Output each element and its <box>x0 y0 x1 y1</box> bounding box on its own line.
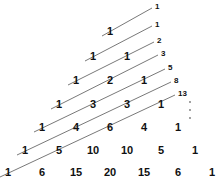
fibonacci-label: 1 <box>155 20 160 29</box>
pascal-entry: 3 <box>124 98 130 110</box>
pascal-entry: 6 <box>39 166 45 178</box>
pascal-entry: 5 <box>56 144 62 156</box>
fibonacci-label: 13 <box>178 89 187 98</box>
fibonacci-label: 1 <box>155 2 160 11</box>
pascal-entry: 3 <box>90 98 96 110</box>
fibonacci-label: 3 <box>161 49 166 58</box>
pascal-entry: 1 <box>39 121 45 133</box>
fibonacci-labels: 11235813 <box>155 2 187 98</box>
pascal-entry: 1 <box>56 98 62 110</box>
pascal-entry: 1 <box>192 144 198 156</box>
diagonal-line <box>0 95 175 177</box>
pascal-entry: 20 <box>104 166 116 178</box>
continuation-dots <box>189 101 191 119</box>
pascal-entry: 1 <box>90 50 96 62</box>
pascal-entry: 5 <box>158 144 164 156</box>
diagram-canvas: 111121133114641151010511615201561 112358… <box>0 0 220 184</box>
pascal-entry: 1 <box>141 74 147 86</box>
pascal-entry: 1 <box>124 50 130 62</box>
pascal-entry: 1 <box>22 144 28 156</box>
pascal-entry: 1 <box>107 25 113 37</box>
pascal-entry: 6 <box>107 121 113 133</box>
pascal-entry: 10 <box>87 144 99 156</box>
pascal-entry: 1 <box>73 74 79 86</box>
fibonacci-label: 8 <box>174 76 179 85</box>
pascal-fibonacci-diagram: 111121133114641151010511615201561 112358… <box>0 0 220 184</box>
pascal-entry: 1 <box>158 98 164 110</box>
fibonacci-label: 5 <box>168 63 173 72</box>
pascal-entry: 1 <box>5 166 11 178</box>
pascal-entry: 1 <box>209 166 215 178</box>
pascal-entry: 4 <box>73 121 80 133</box>
pascal-entry: 10 <box>121 144 133 156</box>
pascal-entry: 4 <box>141 121 148 133</box>
pascal-entry: 6 <box>175 166 181 178</box>
pascal-entry: 15 <box>70 166 82 178</box>
pascal-entry: 15 <box>138 166 150 178</box>
pascal-entry: 2 <box>107 74 113 86</box>
pascal-entry: 1 <box>175 121 181 133</box>
fibonacci-label: 2 <box>157 36 162 45</box>
